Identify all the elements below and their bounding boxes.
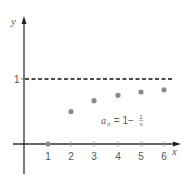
x-tick-label: 5 — [138, 151, 144, 162]
point-n5 — [138, 89, 143, 94]
x-tick-label: 6 — [161, 151, 167, 162]
point-n3 — [91, 98, 96, 103]
x-tick-label: 2 — [68, 151, 74, 162]
x-axis-label: x — [171, 145, 177, 157]
data-points — [45, 87, 166, 146]
x-tick-label: 3 — [91, 151, 97, 162]
point-n1 — [45, 141, 50, 146]
formula-annotation: a n = 1− 1 n — [101, 114, 144, 128]
y-axis-arrow-icon — [22, 16, 27, 24]
formula-numerator: 1 — [139, 114, 142, 120]
x-tick-label: 4 — [115, 151, 121, 162]
y-axis-label: y — [10, 15, 16, 27]
formula-a: a — [101, 115, 106, 126]
sequence-plot: y x 1 1 2 3 4 5 6 a n = 1− 1 n — [0, 0, 189, 182]
x-tick-label: 1 — [45, 151, 51, 162]
x-tick-labels: 1 2 3 4 5 6 — [45, 151, 167, 162]
y-tick-label-1: 1 — [14, 74, 20, 85]
point-n2 — [68, 109, 73, 114]
point-n4 — [115, 93, 120, 98]
formula-equals: = 1− — [111, 115, 134, 126]
point-n6 — [161, 87, 166, 92]
formula-denominator: n — [140, 121, 143, 127]
